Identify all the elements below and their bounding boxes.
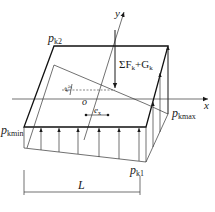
pressure-front-bottom-edge — [24, 148, 146, 162]
y-axis — [84, 12, 124, 140]
label-origin: o — [82, 96, 87, 107]
label-p-k1: pk1 — [129, 163, 144, 178]
front-pressure-arrows — [41, 128, 139, 161]
label-axis-x: x — [203, 99, 209, 111]
label-length: L — [77, 178, 85, 192]
ecc-x-start-dot — [85, 114, 88, 117]
label-ecc-x: ex — [94, 105, 101, 116]
pressure-right-bottom-edge — [146, 114, 168, 162]
ecc-x-end-dot — [107, 114, 110, 117]
label-p-k2: pk2 — [47, 31, 62, 46]
diagram-canvas: pk2 pkmin pkmax pk1 ΣFk+Gk x y o ex ey L — [0, 0, 215, 212]
label-axis-y: y — [114, 7, 120, 19]
label-p-kmin: pkmin — [0, 123, 23, 138]
side-pressure-arrows — [153, 46, 168, 147]
label-load: ΣFk+Gk — [119, 58, 153, 72]
label-p-kmax: pkmax — [171, 106, 196, 121]
pressure-diagram: pk2 pkmin pkmax pk1 ΣFk+Gk x y o ex ey L — [0, 0, 215, 212]
